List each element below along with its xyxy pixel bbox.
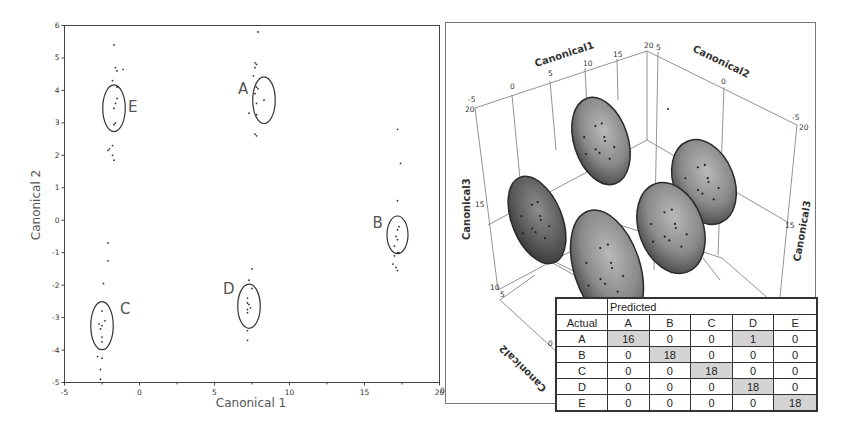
column-header: A xyxy=(608,315,650,331)
data-point xyxy=(101,336,103,338)
data-point xyxy=(113,159,115,161)
data-point xyxy=(115,122,117,124)
plot3d-point xyxy=(675,227,677,229)
column-header: C xyxy=(691,315,733,331)
plot3d-canonical2-tick: 0 xyxy=(721,77,726,86)
data-point xyxy=(101,341,103,343)
table-cell: 0 xyxy=(691,347,733,363)
plot3d-point xyxy=(607,244,609,246)
data-point xyxy=(112,145,114,147)
data-point xyxy=(100,369,102,371)
data-point xyxy=(115,102,117,104)
table-row: A 16 0 0 1 0 xyxy=(556,331,817,347)
table-row: D 0 0 0 18 0 xyxy=(556,379,817,395)
table-cell: 0 xyxy=(774,331,817,347)
data-point xyxy=(257,88,259,90)
plot3d-canonical1-tick: 0 xyxy=(510,82,515,91)
confusion-matrix-table: Predicted Actual A B C D E A 16 0 0 1 0 … xyxy=(555,297,818,412)
plot3d-point xyxy=(587,284,589,286)
y-axis-label: Canonical 2 xyxy=(29,170,43,240)
plot3d-point xyxy=(535,231,537,233)
data-point xyxy=(397,128,399,130)
data-point xyxy=(250,307,252,309)
data-point xyxy=(101,325,103,327)
plot3d-canonical1-tick: 5 xyxy=(548,69,553,78)
plot3d-canonical1-tick: 15 xyxy=(613,50,623,59)
data-point xyxy=(253,75,255,77)
data-point xyxy=(247,309,249,311)
plot3d-point xyxy=(520,215,522,217)
plot3d-point xyxy=(664,236,666,238)
left-plot-frame xyxy=(65,26,440,383)
table-cell: 18 xyxy=(649,347,691,363)
plot3d-point xyxy=(674,223,676,225)
cluster-ellipse-b xyxy=(387,216,408,254)
plot3d-canonical3-tick: 20 xyxy=(799,123,809,132)
data-point xyxy=(113,124,115,126)
column-header: B xyxy=(649,315,691,331)
plot3d-point xyxy=(622,275,624,277)
plot3d-point xyxy=(667,108,669,110)
table-cell: 0 xyxy=(691,395,733,412)
table-cell: 0 xyxy=(608,363,650,379)
table-cell: 1 xyxy=(732,331,774,347)
data-point xyxy=(116,70,118,72)
data-point xyxy=(116,98,118,100)
cluster-label-a: A xyxy=(238,80,249,98)
data-point xyxy=(248,279,250,281)
plot3d-point xyxy=(585,262,587,264)
data-point xyxy=(115,67,117,69)
table-cell: 16 xyxy=(608,331,650,347)
data-point xyxy=(122,68,124,70)
row-header: A xyxy=(556,331,608,347)
data-point xyxy=(100,328,102,330)
plot3d-canonical1-tick: 10 xyxy=(583,59,593,68)
x-tick-label: 15 xyxy=(360,388,370,397)
plot3d-canonical1-tick: 20 xyxy=(644,41,654,50)
y-tick-label: -4 xyxy=(52,346,60,355)
plot3d-point xyxy=(617,291,619,293)
table-header-row-columns: Actual A B C D E xyxy=(556,315,817,331)
table-corner-cell xyxy=(556,298,608,315)
data-point xyxy=(395,236,397,238)
data-point xyxy=(101,357,103,359)
plot3d-point xyxy=(595,148,597,150)
plot3d-point xyxy=(601,122,603,124)
data-point xyxy=(112,154,114,156)
plot3d-canonical3-left-label: Canonical3 xyxy=(461,178,472,240)
x-tick-label: 0 xyxy=(137,388,142,397)
data-point xyxy=(247,339,249,341)
plot3d-point xyxy=(531,204,533,206)
plot3d-point xyxy=(707,177,709,179)
plot3d-canonical3-tick: 20 xyxy=(465,105,475,114)
row-header: C xyxy=(556,363,608,379)
plot3d-point xyxy=(540,219,542,221)
data-point xyxy=(107,242,109,244)
data-point xyxy=(113,44,115,46)
table-cell: 0 xyxy=(691,379,733,395)
data-point xyxy=(103,283,105,285)
row-header: D xyxy=(556,379,608,395)
plot3d-point xyxy=(652,241,654,243)
data-point xyxy=(256,114,258,116)
cluster-label-c: C xyxy=(120,300,130,318)
plot3d-point xyxy=(713,198,715,200)
row-header: E xyxy=(556,395,608,412)
data-point xyxy=(251,268,253,270)
y-tick-label: 1 xyxy=(55,183,60,192)
table-cell: 0 xyxy=(732,395,774,412)
plot3d-point xyxy=(684,177,686,179)
cluster-label-e: E xyxy=(128,98,137,116)
plot3d-canonical3-tick: 15 xyxy=(785,221,795,230)
data-point xyxy=(397,229,399,231)
left-plot-cluster-labels: EABDC xyxy=(120,80,383,318)
data-point xyxy=(254,67,256,69)
data-point xyxy=(397,239,399,241)
data-point xyxy=(400,163,402,165)
data-point xyxy=(116,86,118,88)
data-point xyxy=(256,64,258,66)
table-cell: 0 xyxy=(649,331,691,347)
data-point xyxy=(394,255,396,257)
plot3d-point xyxy=(522,232,524,234)
data-point xyxy=(256,102,258,104)
